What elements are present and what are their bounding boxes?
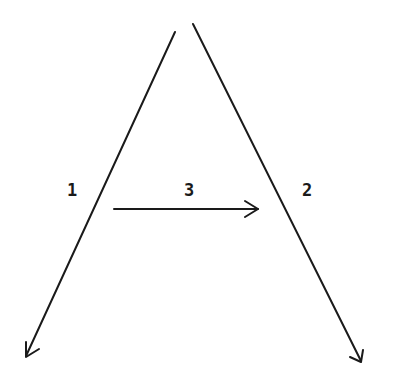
stroke-2-arrow xyxy=(193,24,363,362)
stroke-1-arrow xyxy=(26,32,175,357)
stroke-1-label: 1 xyxy=(67,182,77,199)
stroke-order-diagram: 1 3 2 xyxy=(0,0,394,384)
diagram-drawing xyxy=(0,0,394,384)
stroke-3-arrow xyxy=(114,201,258,217)
stroke-2-label: 2 xyxy=(302,182,312,199)
stroke-3-label: 3 xyxy=(184,182,194,199)
